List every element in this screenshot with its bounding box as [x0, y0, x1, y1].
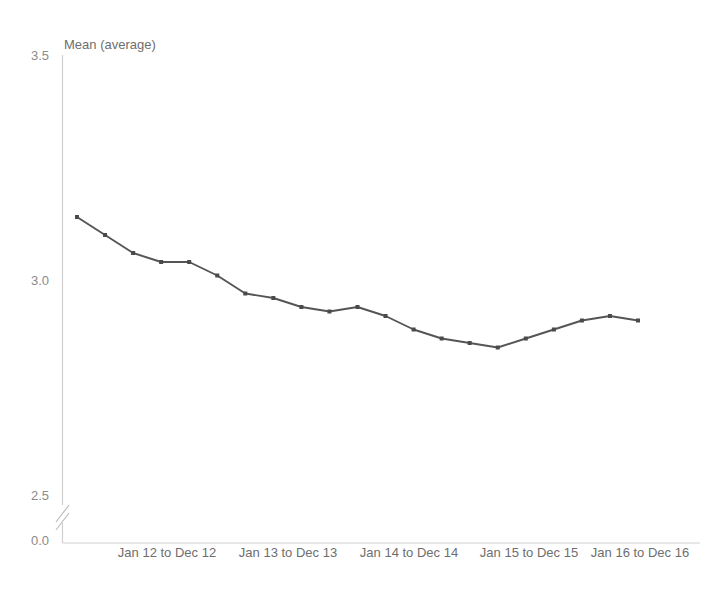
data-point-marker	[187, 260, 191, 264]
y-tick-label-2-5: 2.5	[31, 488, 49, 503]
data-point-marker	[356, 305, 360, 309]
data-point-marker	[440, 337, 444, 341]
data-point-marker	[327, 310, 331, 314]
data-point-marker	[271, 296, 275, 300]
y-tick-label-3-5: 3.5	[31, 48, 49, 63]
data-point-marker	[215, 274, 219, 278]
x-tick-label-4: Jan 16 to Dec 16	[591, 545, 689, 560]
y-axis-title: Mean (average)	[64, 37, 156, 52]
x-tick-label-1: Jan 13 to Dec 13	[239, 545, 337, 560]
x-tick-label-0: Jan 12 to Dec 12	[118, 545, 216, 560]
data-point-marker	[299, 305, 303, 309]
y-tick-label-0-0: 0.0	[31, 533, 49, 548]
data-point-marker	[75, 215, 79, 219]
data-point-marker	[131, 251, 135, 255]
data-point-marker	[524, 337, 528, 341]
data-point-marker	[636, 319, 640, 323]
chart-canvas: Mean (average) 3.5 3.0 2.5 0.0 Jan 12 to…	[0, 0, 717, 591]
y-tick-label-3-0: 3.0	[31, 273, 49, 288]
x-tick-label-3: Jan 15 to Dec 15	[480, 545, 578, 560]
data-point-marker	[608, 314, 612, 318]
data-point-marker	[243, 292, 247, 296]
data-point-marker	[468, 341, 472, 345]
line-chart: Mean (average) 3.5 3.0 2.5 0.0 Jan 12 to…	[0, 0, 717, 591]
data-point-marker	[496, 346, 500, 350]
data-point-marker	[552, 328, 556, 332]
data-point-marker	[384, 314, 388, 318]
data-point-marker	[412, 328, 416, 332]
series-markers-group	[75, 215, 640, 350]
axis-break-slash-upper	[56, 505, 69, 522]
data-point-marker	[580, 319, 584, 323]
data-point-marker	[159, 260, 163, 264]
data-point-marker	[103, 233, 107, 237]
x-tick-label-2: Jan 14 to Dec 14	[360, 545, 458, 560]
